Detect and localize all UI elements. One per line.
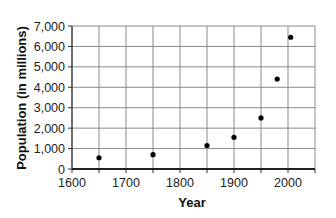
y-tick-label: 0	[58, 163, 65, 177]
y-tick-label: 2,000	[34, 122, 65, 136]
y-tick-label: 4,000	[34, 81, 65, 95]
axes	[68, 26, 315, 173]
data-point	[288, 35, 293, 40]
x-axis-title: Year	[178, 195, 205, 210]
x-tick-label: 1900	[220, 176, 248, 190]
x-tick-labels: 16001700180019002000	[58, 176, 302, 190]
y-tick-label: 6,000	[34, 40, 65, 54]
data-point	[231, 135, 236, 140]
data-point	[258, 115, 263, 120]
data-point	[275, 77, 280, 82]
y-tick-labels: 01,0002,0003,0004,0005,0006,0007,000	[34, 20, 65, 177]
x-tick-label: 2000	[274, 176, 302, 190]
x-tick-label: 1800	[166, 176, 194, 190]
y-tick-label: 1,000	[34, 142, 65, 156]
y-tick-label: 7,000	[34, 20, 65, 34]
x-tick-label: 1700	[112, 176, 140, 190]
y-tick-label: 3,000	[34, 101, 65, 115]
y-axis-title: Population (in millions)	[14, 26, 29, 170]
data-point	[204, 143, 209, 148]
scatter-chart: 01,0002,0003,0004,0005,0006,0007,000 160…	[0, 0, 336, 218]
data-point	[150, 152, 155, 157]
data-point	[96, 155, 101, 160]
x-tick-label: 1600	[58, 176, 86, 190]
y-tick-label: 5,000	[34, 60, 65, 74]
grid-lines	[72, 26, 315, 169]
